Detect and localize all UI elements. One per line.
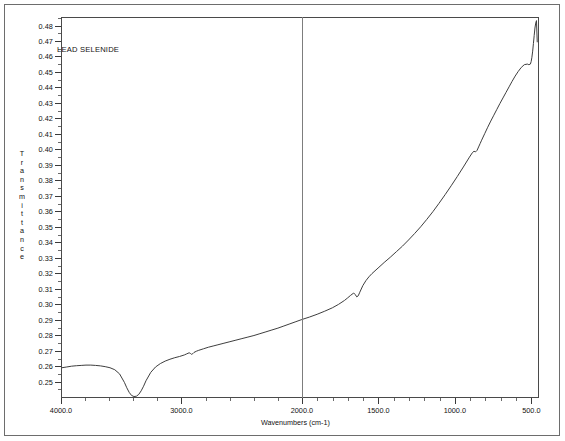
x-axis-minor-tick — [230, 398, 231, 401]
x-axis-tick-label: 1000.0 — [444, 406, 466, 415]
y-axis-tick-label: 0.43 — [38, 98, 53, 107]
x-axis-minor-tick — [409, 398, 410, 401]
y-axis-tick-label: 0.40 — [38, 145, 53, 154]
x-axis-minor-tick — [440, 398, 441, 401]
axis-divider-2000 — [302, 17, 303, 398]
y-axis-tick-label: 0.36 — [38, 207, 53, 216]
y-axis-tick-label: 0.47 — [38, 37, 53, 46]
sample-label: LEAD SELENIDE — [57, 45, 119, 54]
x-axis-minor-tick — [109, 398, 110, 401]
x-axis-tick-mark — [61, 398, 62, 404]
spectrum-curve-svg — [62, 18, 538, 397]
x-axis-minor-tick — [516, 398, 517, 401]
y-axis-tick-label: 0.25 — [38, 377, 53, 386]
x-axis-minor-tick — [348, 398, 349, 401]
y-axis-tick-label: 0.29 — [38, 315, 53, 324]
x-axis-minor-tick — [317, 398, 318, 401]
x-axis-minor-tick — [278, 398, 279, 401]
x-axis-minor-tick — [85, 398, 86, 401]
spectrum-figure: Transmittance 0.480.470.460.450.440.430.… — [0, 0, 565, 441]
x-axis-minor-tick — [333, 398, 334, 401]
x-axis-minor-tick — [157, 398, 158, 401]
x-axis-minor-tick — [254, 398, 255, 401]
x-axis-minor-tick — [394, 398, 395, 401]
x-axis-tick-mark — [181, 398, 182, 404]
x-axis-tick-label: 3000.0 — [170, 406, 192, 415]
y-axis-tick-label: 0.39 — [38, 160, 53, 169]
x-axis-minor-tick — [424, 398, 425, 401]
spectrum-curve — [62, 21, 537, 397]
y-axis-tick-label: 0.45 — [38, 67, 53, 76]
y-axis-tick-label: 0.26 — [38, 362, 53, 371]
x-axis-minor-tick — [485, 398, 486, 401]
y-axis-tick-label: 0.46 — [38, 52, 53, 61]
x-axis-minor-tick — [501, 398, 502, 401]
y-axis-tick-label: 0.31 — [38, 284, 53, 293]
x-axis-minor-tick — [133, 398, 134, 401]
x-axis-minor-tick — [206, 398, 207, 401]
x-axis-tick-mark — [455, 398, 456, 404]
y-axis-tick-label: 0.30 — [38, 300, 53, 309]
x-axis-tick-mark — [378, 398, 379, 404]
y-axis-tick-label: 0.27 — [38, 346, 53, 355]
x-axis-minor-tick — [363, 398, 364, 401]
x-axis-tick-label: 2000.0 — [291, 406, 313, 415]
x-axis-title: Wavenumbers (cm-1) — [261, 418, 330, 427]
y-axis-tick-label: 0.48 — [38, 21, 53, 30]
y-axis-ticks: 0.480.470.460.450.440.430.420.410.400.39… — [0, 0, 61, 441]
y-axis-tick-label: 0.42 — [38, 114, 53, 123]
x-axis-tick-label: 500.0 — [522, 406, 540, 415]
y-axis-tick-label: 0.34 — [38, 238, 53, 247]
y-axis-tick-label: 0.38 — [38, 176, 53, 185]
y-axis-tick-label: 0.35 — [38, 222, 53, 231]
y-axis-tick-label: 0.44 — [38, 83, 53, 92]
x-axis-minor-tick — [470, 398, 471, 401]
x-axis-tick-mark — [302, 398, 303, 404]
x-axis-tick-label: 1500.0 — [367, 406, 389, 415]
y-axis-tick-label: 0.41 — [38, 129, 53, 138]
y-axis-tick-label: 0.33 — [38, 253, 53, 262]
y-axis-tick-label: 0.28 — [38, 331, 53, 340]
plot-area — [61, 17, 539, 398]
y-axis-tick-label: 0.37 — [38, 191, 53, 200]
x-axis-tick-mark — [531, 398, 532, 404]
x-axis-tick-label: 4000.0 — [50, 406, 72, 415]
y-axis-tick-label: 0.32 — [38, 269, 53, 278]
